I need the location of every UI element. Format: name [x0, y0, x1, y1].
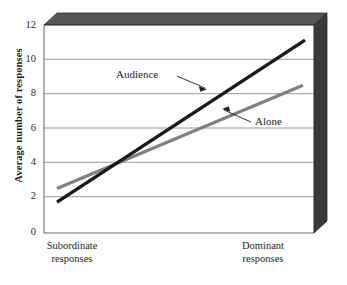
plot-depth-top-face — [44, 13, 327, 25]
x-tick-label-subordinate: Subordinate responses — [17, 240, 127, 265]
plot-depth-right-face — [314, 13, 327, 233]
y-tick-label-0: 0 — [10, 226, 36, 237]
y-tick-label-6: 6 — [10, 122, 36, 133]
x-tick-label-dominant: Dominant responses — [208, 240, 318, 265]
chart-figure: Average number of responses 12 10 8 6 4 … — [0, 0, 347, 285]
series-annotation-audience: Audience — [116, 68, 158, 80]
y-tick-label-2: 2 — [10, 190, 36, 201]
x-tick-label-subordinate-line1: Subordinate — [17, 240, 127, 253]
y-tick-label-10: 10 — [10, 53, 36, 64]
y-tick-label-8: 8 — [10, 87, 36, 98]
x-tick-label-subordinate-line2: responses — [17, 253, 127, 266]
plot-area-background — [44, 25, 314, 233]
y-tick-label-4: 4 — [10, 156, 36, 167]
x-tick-label-dominant-line2: responses — [208, 253, 318, 266]
y-tick-label-12: 12 — [10, 19, 36, 30]
x-tick-label-dominant-line1: Dominant — [208, 240, 318, 253]
series-annotation-alone: Alone — [255, 115, 282, 127]
